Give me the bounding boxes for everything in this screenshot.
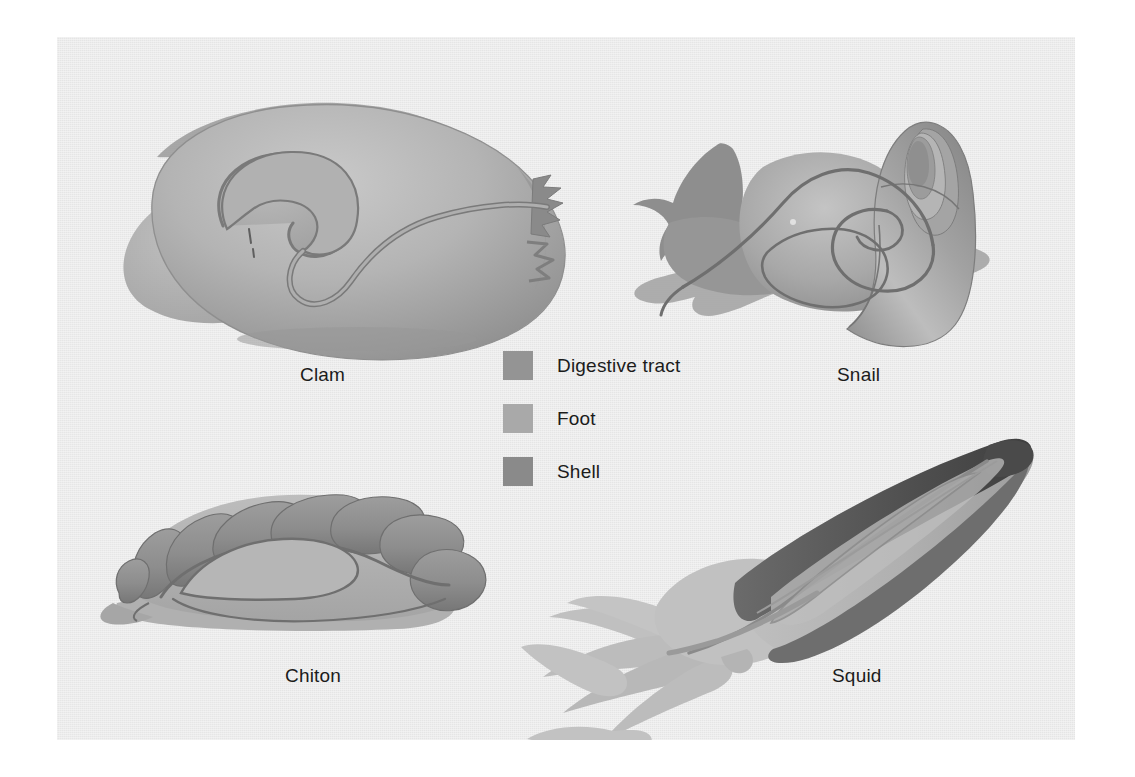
chiton-group xyxy=(100,495,485,631)
legend-item-foot: Foot xyxy=(503,404,680,433)
organism-label-squid: Squid xyxy=(832,665,882,687)
legend-item-digestive-tract: Digestive tract xyxy=(503,351,680,380)
legend-item-shell: Shell xyxy=(503,457,680,486)
legend-swatch-shell xyxy=(503,457,533,486)
legend-label-shell: Shell xyxy=(557,461,600,483)
legend-swatch-digestive-tract xyxy=(503,351,533,380)
snail-body-highlight xyxy=(790,219,796,225)
clam-group xyxy=(123,103,565,360)
legend-label-foot: Foot xyxy=(557,408,596,430)
figure-panel: Clam Snail Chiton Squid Digestive tract … xyxy=(57,37,1075,740)
snail-group xyxy=(633,122,990,346)
squid-tentacle-club-2 xyxy=(527,727,652,740)
legend-swatch-foot xyxy=(503,404,533,433)
legend: Digestive tract Foot Shell xyxy=(503,351,680,486)
organism-label-clam: Clam xyxy=(300,364,345,386)
clam-shadow xyxy=(237,327,477,351)
legend-label-digestive-tract: Digestive tract xyxy=(557,355,680,377)
organism-label-snail: Snail xyxy=(837,364,880,386)
organism-label-chiton: Chiton xyxy=(285,665,341,687)
